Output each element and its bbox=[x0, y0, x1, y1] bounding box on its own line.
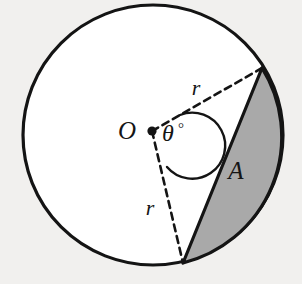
label-angle-theta: θ bbox=[162, 120, 174, 146]
centre-dot bbox=[147, 126, 156, 135]
geometry-diagram: O θ ° r r A bbox=[0, 0, 302, 284]
label-radius-upper: r bbox=[192, 75, 201, 100]
label-degree-symbol: ° bbox=[178, 120, 184, 136]
circle-segment-figure: O θ ° r r A bbox=[0, 0, 302, 284]
label-radius-lower: r bbox=[146, 195, 155, 220]
label-centre-o: O bbox=[118, 117, 136, 144]
label-segment-area: A bbox=[226, 157, 244, 184]
